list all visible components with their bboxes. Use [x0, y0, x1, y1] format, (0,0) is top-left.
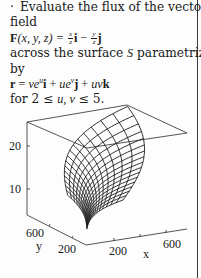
z-tick-label-20: 20	[9, 139, 21, 153]
z-tick-label-10: 10	[9, 182, 21, 196]
surface-plot: 20 10 600 y 200 200 x 600	[0, 0, 201, 278]
axis-ticks	[27, 146, 166, 241]
y-axis-label: y	[36, 239, 42, 253]
x-axis-label: x	[143, 247, 149, 261]
x-tick-label-200: 200	[109, 244, 127, 258]
y-tick-label-200: 200	[58, 242, 76, 256]
x-tick-label-600: 600	[163, 237, 181, 251]
surface-mesh	[64, 107, 144, 230]
y-tick-label-600: 600	[26, 226, 44, 240]
mesh-line	[123, 107, 144, 201]
mesh-line	[79, 139, 143, 208]
textbook-page: · Evaluate the flux of the vector field …	[0, 0, 201, 278]
